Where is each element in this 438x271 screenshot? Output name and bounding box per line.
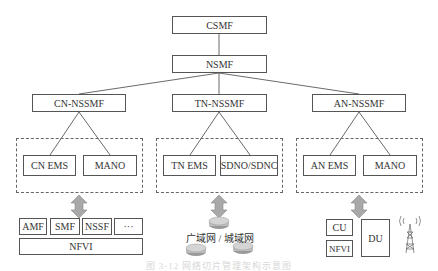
an-mano-box: MANO (363, 155, 417, 176)
amf-box: AMF (19, 218, 47, 235)
smf-box: SMF (50, 218, 80, 235)
du-box: DU (361, 219, 390, 257)
an-nssmf-box: AN-NSSMF (312, 94, 406, 112)
cn-nfvi-box: NFVI (19, 238, 143, 255)
tn-ems-box: TN EMS (163, 155, 216, 176)
nssf-box: NSSF (82, 218, 112, 235)
cn-mano-box: MANO (83, 155, 137, 176)
sdno-sdnc-box: SDNO/SDNC (220, 155, 278, 176)
cn-ems-box: CN EMS (23, 155, 76, 176)
an-ems-box: AN EMS (303, 155, 356, 176)
more-functions-box: ··· (114, 218, 143, 235)
cell-tower-icon (400, 216, 421, 253)
nsmf-box: NSMF (172, 55, 267, 73)
cu-box: CU (326, 219, 353, 236)
wan-man-label: 广域网 / 城域网 (186, 230, 254, 245)
an-nfvi-box: NFVI (326, 240, 353, 257)
csmf-box: CSMF (172, 16, 267, 34)
figure-caption: 图 3-12 网络切片管理架构示意图 (0, 259, 438, 271)
cn-nssmf-box: CN-NSSMF (32, 94, 126, 112)
tn-nssmf-box: TN-NSSMF (172, 94, 267, 112)
double-arrow-icon (71, 195, 367, 218)
